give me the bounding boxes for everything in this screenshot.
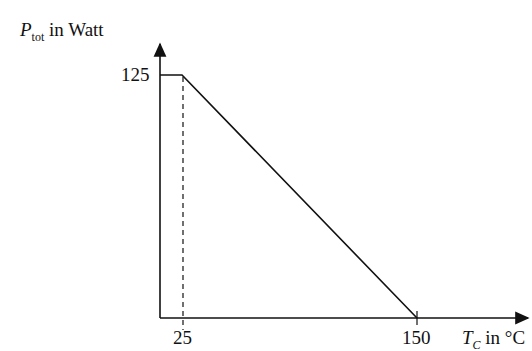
x-tick-150: 150 bbox=[402, 327, 431, 349]
x-axis-label: TC in °C bbox=[462, 327, 525, 351]
y-axis-label: Ptot in Watt bbox=[20, 19, 104, 45]
derating-chart bbox=[0, 0, 532, 351]
power-curve bbox=[160, 75, 417, 318]
y-tick-125: 125 bbox=[121, 64, 150, 86]
x-tick-25: 25 bbox=[173, 327, 192, 349]
